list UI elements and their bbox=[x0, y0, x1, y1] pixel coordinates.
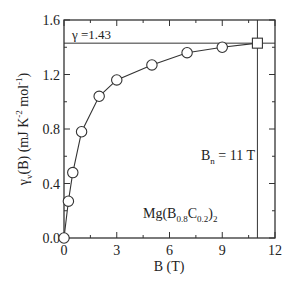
x-tick-label: 3 bbox=[113, 243, 120, 258]
gamma-annotation: γ =1.43 bbox=[71, 27, 111, 42]
data-point bbox=[76, 127, 86, 137]
data-point bbox=[112, 75, 122, 85]
data-point bbox=[68, 167, 78, 177]
x-tick-label: 9 bbox=[219, 243, 226, 258]
x-axis-label: B (T) bbox=[154, 259, 185, 275]
data-point bbox=[182, 48, 192, 58]
data-point bbox=[63, 196, 73, 206]
y-tick-label: 0.4 bbox=[43, 177, 61, 192]
data-point bbox=[59, 233, 69, 243]
x-tick-label: 6 bbox=[166, 243, 173, 258]
y-tick-label: 1.2 bbox=[43, 68, 61, 83]
data-point bbox=[217, 42, 227, 52]
bn-annotation: Bn = 11 T bbox=[201, 148, 255, 166]
y-tick-label: 0.8 bbox=[43, 122, 61, 137]
data-point bbox=[94, 91, 104, 101]
x-tick-label: 12 bbox=[268, 243, 282, 258]
y-axis-label: γv(B) (mJ K-2 mol-1) bbox=[14, 72, 34, 186]
compound-label: Mg(B0.8C0.2)2 bbox=[143, 206, 217, 224]
y-tick-label: 1.6 bbox=[43, 13, 61, 28]
bn-data-point bbox=[252, 38, 262, 48]
chart: 0369120.00.40.81.21.6 γ =1.43 Bn = 11 T … bbox=[0, 0, 294, 291]
y-tick-label: 0.0 bbox=[43, 231, 61, 246]
x-tick-label: 0 bbox=[61, 243, 68, 258]
data-point bbox=[147, 60, 157, 70]
